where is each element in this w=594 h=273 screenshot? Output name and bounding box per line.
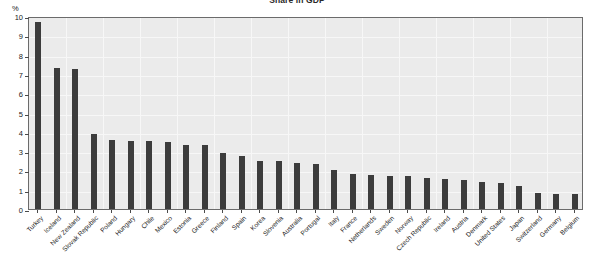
y-axis-tick-label: 1 [19, 188, 23, 196]
y-axis-tick-mark [25, 18, 29, 19]
gridline-vertical [436, 18, 437, 209]
bar [535, 193, 541, 209]
y-axis-tick-mark [25, 192, 29, 193]
y-axis-tick-label: 9 [19, 34, 23, 42]
x-axis-tick-mark [537, 210, 538, 213]
y-axis-tick-mark [25, 37, 29, 38]
x-axis-tick-mark [111, 210, 112, 213]
gridline-vertical [288, 18, 289, 209]
bar [350, 174, 356, 209]
y-axis-tick-mark [25, 115, 29, 116]
bar [553, 194, 559, 209]
x-axis-tick-label: Spain [231, 215, 248, 232]
bar [146, 141, 152, 210]
bar [498, 183, 504, 209]
y-axis-tick-mark [25, 134, 29, 135]
plot-inner [29, 18, 582, 209]
bar [387, 176, 393, 209]
x-axis-tick-mark [222, 210, 223, 213]
x-axis-tick-mark [407, 210, 408, 213]
x-axis-tick-label: Ireland [432, 215, 451, 234]
x-axis-tick-mark [241, 210, 242, 213]
gridline-vertical [103, 18, 104, 209]
gridline-vertical [66, 18, 67, 209]
x-axis-tick-label: Finland [209, 215, 229, 235]
bar [368, 175, 374, 209]
bar [331, 170, 337, 209]
x-axis-tick-mark [444, 210, 445, 213]
bar [128, 141, 134, 209]
y-axis-tick-label: 0 [19, 207, 23, 215]
x-axis-tick-mark [278, 210, 279, 213]
bar [257, 161, 263, 209]
x-axis-tick-mark [37, 210, 38, 213]
gridline-vertical [325, 18, 326, 209]
bar [276, 161, 282, 209]
y-axis-tick-label: 5 [19, 111, 23, 119]
y-axis-tick-label: 3 [19, 149, 23, 157]
bar [405, 176, 411, 209]
x-axis-tick-label: Italy [327, 215, 340, 228]
bar [109, 140, 115, 209]
gridline-vertical [547, 18, 548, 209]
x-axis-tick-label: Belgium [559, 215, 581, 237]
chart-title: Share in GDP [0, 0, 594, 5]
x-axis-tick-mark [148, 210, 149, 213]
x-axis-tick-mark [426, 210, 427, 213]
x-axis-tick-mark [296, 210, 297, 213]
bar [572, 194, 578, 209]
gridline-vertical [251, 18, 252, 209]
y-axis-tick-mark [25, 172, 29, 173]
bar [239, 156, 245, 209]
gridline-vertical [362, 18, 363, 209]
y-axis-tick-label: 2 [19, 169, 23, 177]
bar [313, 164, 319, 209]
bar [479, 182, 485, 209]
x-axis-tick-mark [56, 210, 57, 213]
x-axis-tick-mark [333, 210, 334, 213]
x-axis-tick-mark [130, 210, 131, 213]
bar [461, 180, 467, 209]
x-axis-tick-mark [481, 210, 482, 213]
bar [35, 22, 41, 209]
x-axis-tick-mark [204, 210, 205, 213]
y-axis-tick-mark [25, 95, 29, 96]
x-axis-tick-label: Greece [191, 215, 211, 235]
gridline-vertical [510, 18, 511, 209]
x-axis-tick-label: Estonia [172, 215, 192, 235]
x-axis-tick-mark [463, 210, 464, 213]
x-axis-tick-mark [389, 210, 390, 213]
x-axis-tick-mark [370, 210, 371, 213]
bar [442, 179, 448, 209]
x-axis-tick-label: Mexico [154, 215, 173, 234]
bar [202, 145, 208, 209]
bar [424, 178, 430, 209]
x-axis-tick-mark [555, 210, 556, 213]
bar [54, 68, 60, 209]
plot-area: 012345678910 [28, 17, 583, 210]
gridline-vertical [214, 18, 215, 209]
y-axis-unit-label: % [12, 4, 19, 13]
y-axis-tick-label: 7 [19, 72, 23, 80]
y-axis-tick-label: 6 [19, 91, 23, 99]
x-axis-tick-mark [93, 210, 94, 213]
y-axis-tick-label: 10 [15, 14, 23, 22]
y-axis-tick-mark [25, 57, 29, 58]
x-axis-tick-mark [259, 210, 260, 213]
x-axis-tick-mark [167, 210, 168, 213]
x-axis-tick-mark [574, 210, 575, 213]
bar [91, 134, 97, 209]
bar [294, 163, 300, 209]
bar [220, 153, 226, 209]
gridline-horizontal [29, 57, 582, 58]
gridline-vertical [473, 18, 474, 209]
gridline-horizontal [29, 37, 582, 38]
y-axis-tick-label: 8 [19, 53, 23, 61]
gridline-horizontal [29, 76, 582, 77]
x-axis-tick-label: Slovak Republic [62, 215, 100, 253]
bar [72, 69, 78, 209]
gridline-horizontal [29, 115, 582, 116]
x-axis-tick-mark [74, 210, 75, 213]
bar [516, 186, 522, 209]
gridline-vertical [399, 18, 400, 209]
